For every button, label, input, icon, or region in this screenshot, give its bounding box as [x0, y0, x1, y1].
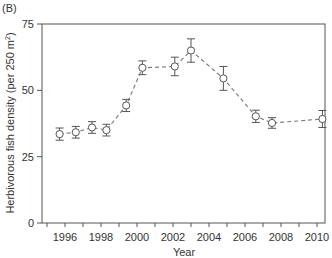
y-axis-label: Herbivorous fish density (per 250 m2) [4, 32, 16, 213]
y-tick-label: 0 [28, 217, 34, 229]
series-herbivorous-fish-density [56, 39, 327, 140]
point-marker [56, 131, 63, 138]
series-line [60, 51, 323, 135]
y-tick-label: 75 [22, 18, 34, 30]
point-marker [187, 47, 194, 54]
data-point [252, 110, 260, 122]
y-tick-label: 25 [22, 151, 34, 163]
data-point [122, 99, 130, 111]
point-marker [103, 127, 110, 134]
data-point [171, 57, 179, 76]
data-point [56, 128, 64, 140]
data-point [138, 61, 146, 75]
y-tick-label: 50 [22, 84, 34, 96]
data-point [72, 126, 80, 138]
panel-label: (B) [2, 2, 17, 14]
chart: (B) 0255075 1996199820002002200420062008… [0, 0, 332, 258]
x-tick-label: 2010 [305, 231, 329, 243]
x-axis-label: Year [173, 246, 196, 258]
data-point [219, 66, 227, 90]
point-marker [88, 124, 95, 131]
point-marker [220, 75, 227, 82]
x-tick-label: 2000 [125, 231, 149, 243]
point-marker [268, 119, 275, 126]
y-axis: 0255075 [22, 18, 42, 229]
point-marker [123, 102, 130, 109]
point-marker [72, 129, 79, 136]
x-tick-label: 2004 [197, 231, 221, 243]
plot-frame [42, 24, 325, 223]
point-marker [171, 63, 178, 70]
data-point [268, 118, 276, 129]
x-tick-label: 2008 [269, 231, 293, 243]
x-tick-label: 1996 [53, 231, 77, 243]
x-tick-label: 2006 [233, 231, 257, 243]
point-marker [319, 115, 326, 122]
x-tick-label: 2002 [161, 231, 185, 243]
data-point [88, 122, 96, 134]
x-tick-label: 1998 [89, 231, 113, 243]
data-point [187, 39, 195, 62]
point-marker [139, 64, 146, 71]
x-axis: 19961998200020022004200620082010 [47, 223, 329, 243]
point-marker [252, 113, 259, 120]
